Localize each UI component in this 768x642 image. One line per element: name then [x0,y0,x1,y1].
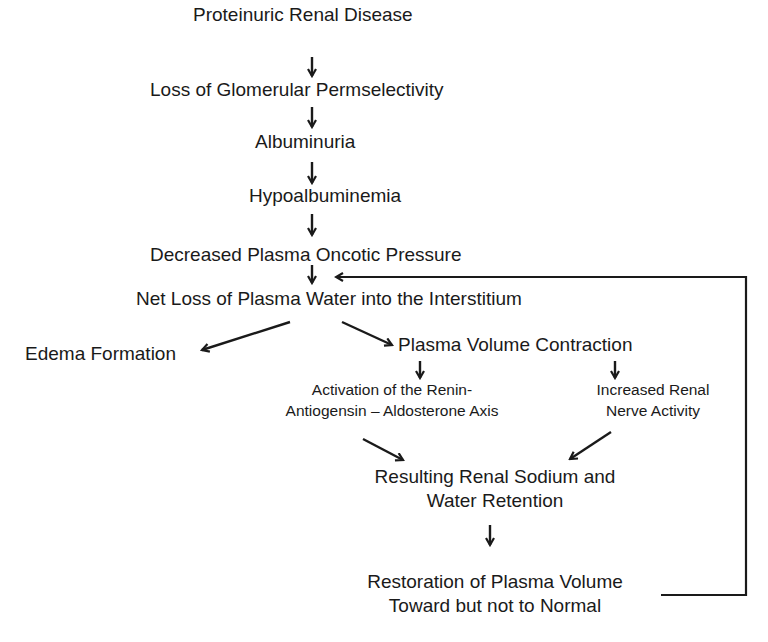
arrow-to-edema-icon [202,322,290,350]
feedback-loop-arrow-icon [336,277,746,595]
arrow-nerve-to-retention-icon [570,432,611,459]
arrow-raas-to-retention-icon [363,439,403,460]
arrow-to-plasma-contraction-icon [342,322,392,345]
arrows-layer [0,0,768,642]
